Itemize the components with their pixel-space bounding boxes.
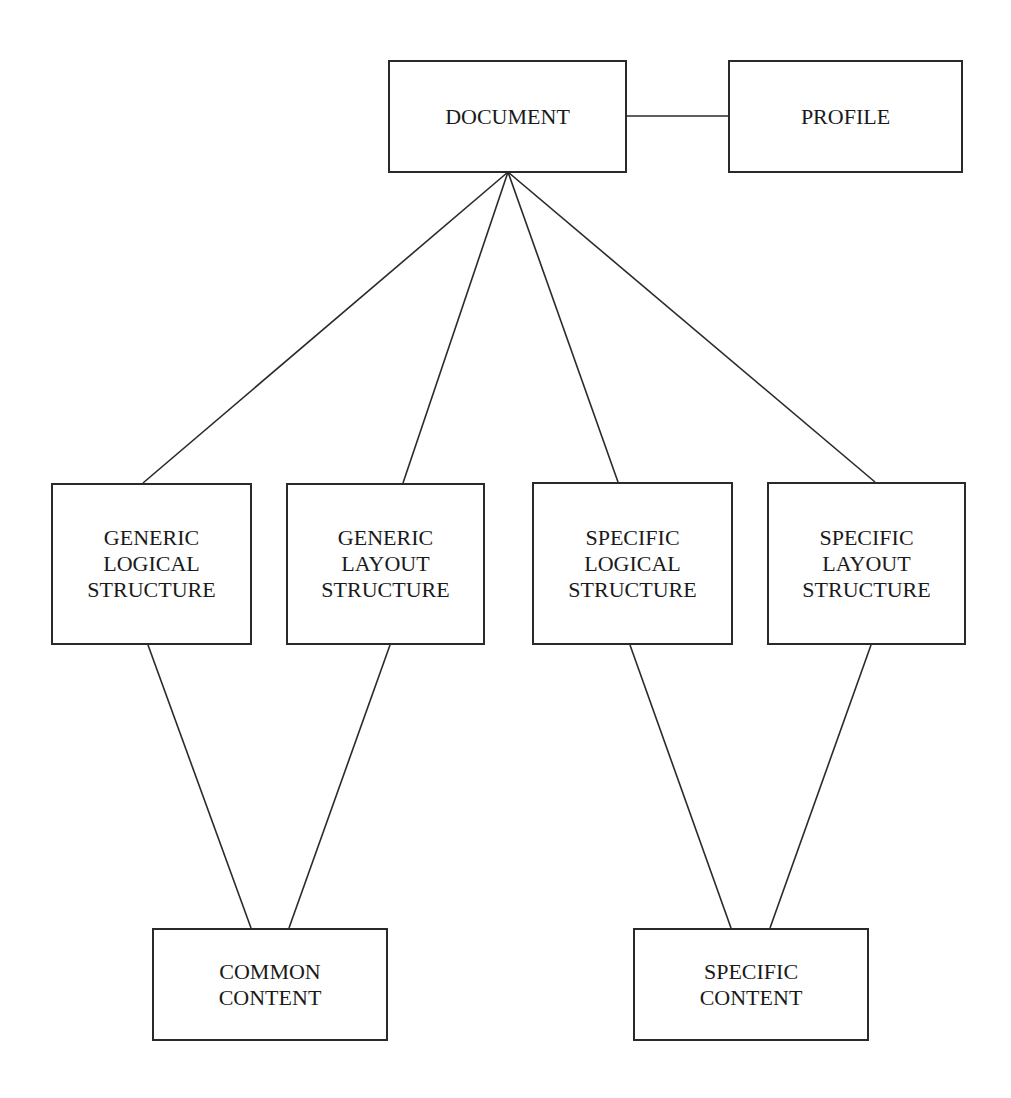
node-specific-logical-structure: SPECIFIC LOGICAL STRUCTURE (532, 482, 733, 645)
node-common-content-label: COMMON CONTENT (219, 959, 322, 1011)
node-generic-logical-structure: GENERIC LOGICAL STRUCTURE (51, 483, 252, 645)
edge-generic-layout-common-content (289, 645, 390, 928)
node-generic-layout-structure: GENERIC LAYOUT STRUCTURE (286, 483, 485, 645)
node-generic-layout-structure-label: GENERIC LAYOUT STRUCTURE (321, 525, 449, 603)
node-profile-label: PROFILE (801, 104, 890, 130)
edge-specific-layout-specific-content (770, 645, 871, 928)
node-document-label: DOCUMENT (445, 104, 570, 130)
node-profile: PROFILE (728, 60, 963, 173)
edge-document-generic-layout (403, 172, 508, 483)
diagram-canvas: DOCUMENT PROFILE GENERIC LOGICAL STRUCTU… (0, 0, 1011, 1098)
node-specific-logical-structure-label: SPECIFIC LOGICAL STRUCTURE (568, 525, 696, 603)
node-common-content: COMMON CONTENT (152, 928, 388, 1041)
node-specific-layout-structure: SPECIFIC LAYOUT STRUCTURE (767, 482, 966, 645)
edge-document-generic-logical (143, 172, 508, 483)
node-specific-layout-structure-label: SPECIFIC LAYOUT STRUCTURE (802, 525, 930, 603)
edge-generic-logical-common-content (148, 645, 251, 928)
node-specific-content-label: SPECIFIC CONTENT (700, 959, 803, 1011)
node-generic-logical-structure-label: GENERIC LOGICAL STRUCTURE (87, 525, 215, 603)
node-specific-content: SPECIFIC CONTENT (633, 928, 869, 1041)
edge-specific-logical-specific-content (630, 645, 731, 928)
node-document: DOCUMENT (388, 60, 627, 173)
